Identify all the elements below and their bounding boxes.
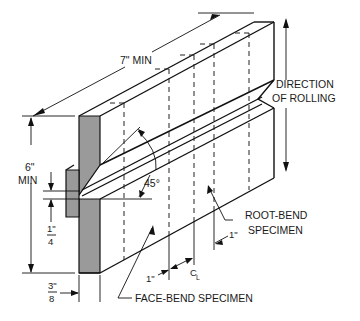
top-back-edge-front [100, 22, 274, 116]
quarter-inch-denominator: 4 [48, 236, 53, 247]
root-bend-line1: ROOT-BEND [245, 209, 308, 221]
end-face-lower [79, 199, 100, 273]
angle-label: 45° [144, 177, 160, 189]
one-inch-left: 1" [146, 273, 155, 284]
backing-strip [66, 170, 79, 217]
face-bend-label: FACE-BEND SPECIMEN [135, 292, 253, 304]
centerline-sub: L [196, 274, 200, 281]
end-face-upper [79, 116, 100, 195]
direction-line2: OF ROLLING [272, 92, 336, 104]
three-eighths-denominator: 8 [49, 293, 54, 304]
root-bend-line2: SPECIMEN [248, 224, 303, 236]
length-label: 7" MIN [120, 54, 152, 66]
height-unit: MIN [18, 174, 37, 186]
three-eighths-numerator: 3" [48, 280, 57, 291]
height-value: 6" [25, 161, 35, 173]
weld-specimen-diagram: 7" MIN 6" MIN 1" 4 3" 8 45° DIRECTION OF… [0, 0, 360, 321]
one-inch-right: 1" [229, 229, 238, 240]
specimen-drawing: 7" MIN 6" MIN 1" 4 3" 8 45° DIRECTION OF… [0, 0, 360, 321]
quarter-inch-numerator: 1" [47, 223, 56, 234]
direction-line1: DIRECTION [276, 78, 334, 90]
